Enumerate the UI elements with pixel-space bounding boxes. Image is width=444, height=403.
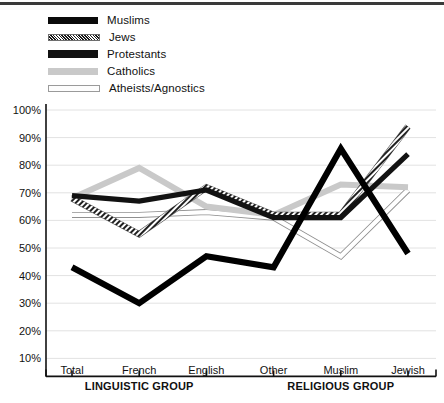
chart-root: Muslims Jews Protestants Catholics Athei… <box>0 0 444 403</box>
x-axis-tick-label-jewish: Jewish <box>391 365 425 376</box>
x-axis-tick-label-muslim: Muslim <box>323 365 358 376</box>
x-axis-group-label: LINGUISTIC GROUP <box>85 381 194 392</box>
y-axis-tick-label: 80% <box>19 160 41 171</box>
y-axis-tick-label: 40% <box>19 270 41 281</box>
y-axis-tick-label: 10% <box>19 353 41 364</box>
x-axis-tick-label-total: Total <box>60 365 83 376</box>
y-axis-tick-label: 100% <box>13 105 41 116</box>
y-axis-tick-label: 90% <box>19 132 41 143</box>
y-axis-tick-label: 30% <box>19 298 41 309</box>
x-axis-tick-label-french: French <box>122 365 156 376</box>
x-axis-tick-label-other: Other <box>260 365 288 376</box>
plot-area: 100%90%80%70%60%50%40%30%20%10% TotalFre… <box>0 0 444 403</box>
x-axis-group-label: RELIGIOUS GROUP <box>287 381 394 392</box>
gridlines <box>46 110 436 358</box>
chart-canvas <box>0 0 444 403</box>
data-series-layer <box>72 127 408 304</box>
y-axis-tick-label: 60% <box>19 215 41 226</box>
y-axis-labels: 100%90%80%70%60%50%40%30%20%10% <box>0 0 46 403</box>
x-axis-tick-label-english: English <box>188 365 224 376</box>
y-axis-tick-label: 50% <box>19 243 41 254</box>
y-axis-tick-label: 70% <box>19 187 41 198</box>
axis-lines <box>46 104 436 376</box>
y-axis-tick-label: 20% <box>19 325 41 336</box>
